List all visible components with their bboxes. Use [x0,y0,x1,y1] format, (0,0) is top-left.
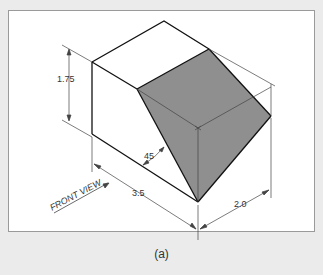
dimension-height [62,45,92,137]
isometric-drawing: 1.75 3.5 2.0 45 FRONT VIEW [0,0,323,275]
figure-caption: (a) [0,247,323,261]
dimension-label-angle: 45 [144,151,154,161]
front-view-label: FRONT VIEW [48,177,104,213]
dimension-label-height: 1.75 [57,74,75,84]
dimension-label-length: 3.5 [132,188,145,198]
dimension-label-depth: 2.0 [234,199,247,209]
